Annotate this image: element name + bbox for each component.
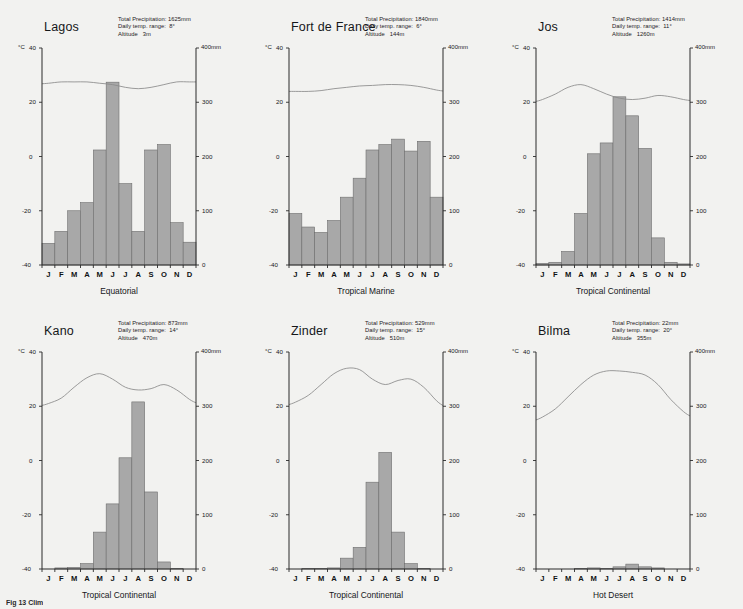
precipitation-unit-label: 400mm <box>448 348 468 354</box>
temp-tick-label: -40 <box>516 261 525 268</box>
precipitation-bar <box>379 145 392 265</box>
month-label: A <box>379 574 392 583</box>
climate-graph-panel: Fort de FranceTotal Precipitation: 1840m… <box>247 0 494 304</box>
precipitation-bar <box>55 231 68 265</box>
temperature-unit-label: °C <box>512 44 519 50</box>
month-label: J <box>353 270 366 279</box>
total-precipitation-value: Total Precipitation: 873mm <box>118 320 188 327</box>
month-label: N <box>417 270 430 279</box>
month-label: M <box>93 574 106 583</box>
month-label: M <box>68 574 81 583</box>
precipitation-bar <box>417 141 430 265</box>
month-label: O <box>405 574 418 583</box>
month-label: M <box>562 574 575 583</box>
month-label: M <box>68 270 81 279</box>
precipitation-bar <box>366 150 379 265</box>
month-label: J <box>42 574 55 583</box>
month-label: J <box>106 270 119 279</box>
precipitation-bar <box>145 492 158 569</box>
month-label: O <box>652 574 665 583</box>
station-meta: Total Precipitation: 873mmDaily temp. ra… <box>118 320 188 342</box>
month-label: S <box>639 574 652 583</box>
month-label: A <box>132 270 145 279</box>
month-label: M <box>340 270 353 279</box>
axes <box>536 352 690 569</box>
precipitation-unit-label: 400mm <box>201 44 221 50</box>
month-label: A <box>328 270 341 279</box>
month-label: M <box>587 574 600 583</box>
climate-type-label: Tropical Continental <box>289 590 443 600</box>
precipitation-bar <box>600 143 613 265</box>
temp-tick-label: -20 <box>269 207 278 214</box>
station-meta: Total Precipitation: 529mmDaily temp. ra… <box>365 320 435 342</box>
precip-tick-label: 0 <box>202 261 205 268</box>
daily-temp-range-value: Daily temp. range: 11° <box>612 23 685 30</box>
station-name: Kano <box>44 324 74 338</box>
temp-tick-label: 0 <box>276 457 279 464</box>
precipitation-bar <box>562 251 575 265</box>
precipitation-bar <box>405 564 418 569</box>
temperature-unit-label: °C <box>18 348 25 354</box>
precip-tick-label: 0 <box>696 261 699 268</box>
month-label: A <box>626 270 639 279</box>
month-label: S <box>639 270 652 279</box>
month-label: D <box>183 270 196 279</box>
month-label: A <box>575 574 588 583</box>
precipitation-bar <box>587 154 600 265</box>
altitude-value: Altitude 510m <box>365 335 435 342</box>
precipitation-unit-label: 400mm <box>695 348 715 354</box>
precip-tick-label: 300 <box>449 98 459 105</box>
temp-tick-label: 40 <box>523 348 530 355</box>
month-label: F <box>55 574 68 583</box>
precipitation-bar <box>289 213 302 265</box>
month-label: J <box>42 270 55 279</box>
altitude-value: Altitude 144m <box>365 31 438 38</box>
month-label: O <box>158 574 171 583</box>
precip-tick-label: 300 <box>202 98 212 105</box>
temp-tick-label: -40 <box>22 565 31 572</box>
climate-graph-panel: KanoTotal Precipitation: 873mmDaily temp… <box>0 304 247 609</box>
precip-tick-label: 300 <box>696 98 706 105</box>
month-label: F <box>549 270 562 279</box>
precipitation-unit-label: 400mm <box>448 44 468 50</box>
precipitation-bar <box>106 82 119 265</box>
precip-tick-label: 0 <box>449 565 452 572</box>
temp-tick-label: 0 <box>276 153 279 160</box>
precipitation-bar <box>158 562 171 569</box>
altitude-value: Altitude 355m <box>612 335 678 342</box>
precipitation-bar <box>340 197 353 265</box>
station-name: Lagos <box>44 20 79 34</box>
precipitation-bar <box>183 242 196 265</box>
precipitation-bar <box>119 184 132 265</box>
precip-tick-label: 100 <box>449 511 459 518</box>
month-label: F <box>549 574 562 583</box>
total-precipitation-value: Total Precipitation: 1625mm <box>118 16 191 23</box>
month-label: S <box>145 270 158 279</box>
precipitation-bar <box>405 151 418 265</box>
precipitation-bar <box>626 564 639 569</box>
precipitation-bars <box>536 97 690 265</box>
temp-tick-label: 20 <box>276 402 283 409</box>
total-precipitation-value: Total Precipitation: 22mm <box>612 320 678 327</box>
month-label: J <box>600 270 613 279</box>
month-label: J <box>366 574 379 583</box>
precipitation-bar <box>81 564 94 569</box>
precip-tick-label: 200 <box>696 457 706 464</box>
precipitation-bar <box>575 213 588 265</box>
precipitation-unit-label: 400mm <box>201 348 221 354</box>
precipitation-bar <box>613 97 626 265</box>
temperature-unit-label: °C <box>18 44 25 50</box>
temp-tick-label: -40 <box>22 261 31 268</box>
precipitation-bars <box>42 82 196 265</box>
precipitation-bar <box>93 532 106 569</box>
month-label: M <box>315 574 328 583</box>
total-precipitation-value: Total Precipitation: 1840mm <box>365 16 438 23</box>
month-label: J <box>119 574 132 583</box>
temp-tick-label: -20 <box>22 511 31 518</box>
temperature-unit-label: °C <box>265 44 272 50</box>
month-label: O <box>158 270 171 279</box>
precip-tick-label: 200 <box>696 153 706 160</box>
month-label: A <box>379 270 392 279</box>
temp-tick-label: -40 <box>516 565 525 572</box>
precipitation-bar <box>392 532 405 569</box>
